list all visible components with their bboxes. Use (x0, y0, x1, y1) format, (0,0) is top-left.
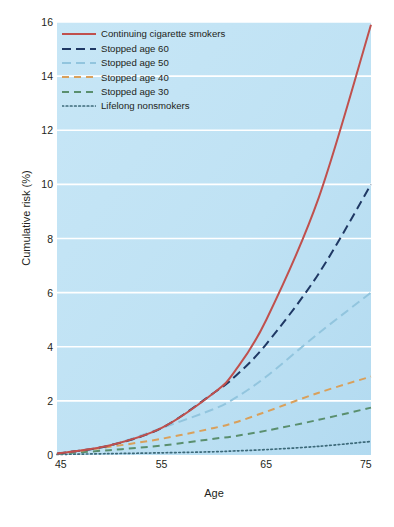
y-axis-title: Cumulative risk (%) (20, 148, 32, 288)
legend-label: Stopped age 40 (101, 73, 169, 83)
legend-item: Stopped age 30 (62, 85, 225, 99)
legend-swatch-icon (62, 72, 96, 82)
legend-swatch-icon (62, 58, 96, 68)
legend-label: Lifelong nonsmokers (101, 101, 190, 111)
cumulative-risk-line-chart: 0246810121416 45556575 Cumulative risk (… (0, 0, 394, 527)
legend-item: Stopped age 60 (62, 41, 225, 55)
legend-swatch-icon (62, 101, 96, 111)
legend-swatch-icon (62, 29, 96, 39)
legend-item: Stopped age 50 (62, 56, 225, 70)
x-tick-label: 45 (55, 458, 67, 470)
y-axis-title-text: Cumulative risk (%) (20, 170, 32, 265)
legend-item: Lifelong nonsmokers (62, 99, 225, 113)
chart-legend: Continuing cigarette smokersStopped age … (62, 27, 225, 113)
x-tick-label: 75 (360, 458, 372, 470)
legend-swatch-icon (62, 87, 96, 97)
legend-item: Continuing cigarette smokers (62, 27, 225, 41)
x-tick-label: 65 (260, 458, 272, 470)
legend-label: Stopped age 30 (101, 87, 169, 97)
x-axis-title-text: Age (204, 487, 224, 499)
legend-item: Stopped age 40 (62, 70, 225, 84)
legend-label: Continuing cigarette smokers (101, 29, 225, 39)
x-axis-title: Age (57, 487, 371, 499)
legend-label: Stopped age 50 (101, 58, 169, 68)
legend-swatch-icon (62, 44, 96, 54)
legend-label: Stopped age 60 (101, 44, 169, 54)
x-tick-label: 55 (156, 458, 168, 470)
